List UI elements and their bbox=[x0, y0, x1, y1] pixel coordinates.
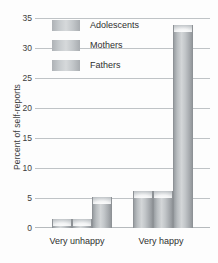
y-tick-20: 20 bbox=[10, 104, 32, 113]
bar-very-unhappy-adolescents bbox=[52, 219, 72, 228]
legend-item-mothers: Mothers bbox=[52, 36, 139, 54]
legend: Adolescents Mothers Fathers bbox=[52, 16, 139, 76]
bar-very-happy-mothers bbox=[153, 191, 173, 228]
legend-label-mothers: Mothers bbox=[90, 40, 123, 50]
bar-very-unhappy-fathers bbox=[92, 197, 112, 228]
x-tick-very-happy: Very happy bbox=[126, 236, 196, 246]
legend-label-fathers: Fathers bbox=[90, 60, 121, 70]
y-axis-tick-labels: 35 30 25 20 15 10 5 0 bbox=[0, 18, 32, 228]
bar-very-happy-adolescents bbox=[133, 191, 153, 228]
y-tick-10: 10 bbox=[10, 164, 32, 173]
y-tick-30: 30 bbox=[10, 44, 32, 53]
legend-item-adolescents: Adolescents bbox=[52, 16, 139, 34]
legend-label-adolescents: Adolescents bbox=[90, 20, 139, 30]
y-tick-5: 5 bbox=[10, 194, 32, 203]
y-tick-15: 15 bbox=[10, 134, 32, 143]
legend-swatch-adolescents bbox=[52, 20, 80, 31]
legend-swatch-mothers bbox=[52, 40, 80, 51]
bar-very-unhappy-mothers bbox=[72, 219, 92, 228]
legend-item-fathers: Fathers bbox=[52, 56, 139, 74]
bar-chart: Percent of self-reports 35 30 25 20 15 1… bbox=[0, 0, 218, 263]
y-tick-25: 25 bbox=[10, 74, 32, 83]
x-tick-very-unhappy: Very unhappy bbox=[42, 236, 112, 246]
legend-swatch-fathers bbox=[52, 60, 80, 71]
y-tick-0: 0 bbox=[10, 224, 32, 233]
y-tick-35: 35 bbox=[10, 14, 32, 23]
bar-very-happy-fathers bbox=[173, 25, 193, 228]
